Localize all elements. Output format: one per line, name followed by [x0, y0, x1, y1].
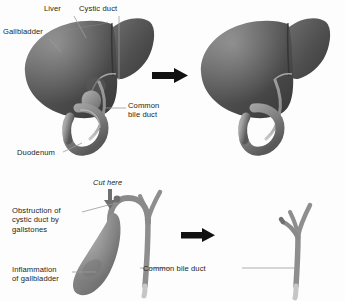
- label-cystic-duct: Cystic duct: [79, 4, 117, 13]
- label-inflammation: Inflammation of gallbladder: [12, 265, 59, 284]
- label-duodenum: Duodenum: [17, 148, 55, 157]
- label-common-bile-duct-2: Common bile duct: [143, 264, 206, 273]
- leader-gallbladder: [49, 39, 61, 52]
- label-common-bile-duct: Common bile duct: [128, 101, 159, 120]
- figure-root: Liver Cystic duct Gallbladder Common bil…: [0, 0, 345, 301]
- label-cut-here: Cut here: [93, 178, 122, 187]
- leader-duodenum: [63, 143, 82, 152]
- leader-liver: [74, 16, 86, 38]
- label-liver: Liver: [44, 4, 61, 13]
- label-obstruction: Obstruction of cystic duct by gallstones: [12, 206, 61, 234]
- label-gallbladder: Gallbladder: [3, 27, 43, 36]
- leader-obstruction: [82, 203, 116, 212]
